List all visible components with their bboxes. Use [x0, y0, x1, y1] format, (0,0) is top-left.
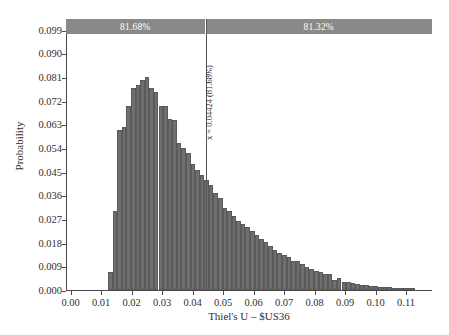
- x-axis-tick-label: 0.04: [183, 297, 201, 308]
- marker-label: x = 0.04424 (81.68%): [204, 65, 214, 140]
- certainty-band: 81.68%81.32%: [66, 19, 432, 34]
- x-axis-title: Thiel's U – $US36: [66, 310, 432, 322]
- x-axis-tick-mark: [315, 291, 316, 295]
- y-axis-tick-label: 0.063: [16, 120, 62, 130]
- y-axis-tick-label: 0.099: [16, 26, 62, 36]
- x-axis-tick-label: 0.03: [153, 297, 171, 308]
- x-axis-tick-label: 0.09: [336, 297, 354, 308]
- x-axis-tick-label: 0.08: [305, 297, 323, 308]
- y-axis-tick-labels: 0.0000.0090.0180.0270.0360.0450.0540.063…: [16, 0, 62, 335]
- x-axis-tick-label: 0.11: [397, 297, 415, 308]
- x-axis-tick-mark: [162, 291, 163, 295]
- certainty-band-segment: 81.68%: [66, 19, 206, 34]
- x-axis-tick-mark: [193, 291, 194, 295]
- y-axis-tick-label: 0.036: [16, 191, 62, 201]
- x-axis-tick-mark: [345, 291, 346, 295]
- x-axis-tick-mark: [284, 291, 285, 295]
- x-axis-tick-label: 0.00: [61, 297, 79, 308]
- y-axis-tick-label: 0.000: [16, 286, 62, 296]
- x-axis-tick-mark: [132, 291, 133, 295]
- x-axis-tick-label: 0.10: [366, 297, 384, 308]
- x-axis-tick-mark: [254, 291, 255, 295]
- plot-area: [66, 19, 432, 291]
- x-axis-tick-mark: [223, 291, 224, 295]
- x-axis-tick-label: 0.01: [92, 297, 110, 308]
- y-axis-tick-label: 0.081: [16, 73, 62, 83]
- x-axis-tick-mark: [406, 291, 407, 295]
- x-axis-tick-label: 0.07: [275, 297, 293, 308]
- histogram-bar: [410, 288, 415, 290]
- x-axis-tick-mark: [71, 291, 72, 295]
- marker-line: [206, 19, 207, 291]
- x-axis-tick-label: 0.05: [214, 297, 232, 308]
- y-axis-tick-label: 0.045: [16, 168, 62, 178]
- y-axis-tick-label: 0.018: [16, 239, 62, 249]
- y-axis-tick-label: 0.054: [16, 144, 62, 154]
- probability-histogram-chart: Probability 0.0000.0090.0180.0270.0360.0…: [0, 0, 449, 335]
- y-axis-tick-label: 0.072: [16, 97, 62, 107]
- x-axis-tick-label: 0.02: [122, 297, 140, 308]
- x-axis-tick-mark: [376, 291, 377, 295]
- x-axis-tick-mark: [101, 291, 102, 295]
- y-axis-tick-label: 0.027: [16, 215, 62, 225]
- histogram-bars: [67, 19, 432, 290]
- certainty-band-segment: 81.32%: [206, 19, 432, 34]
- x-axis-tick-label: 0.06: [244, 297, 262, 308]
- y-axis-tick-label: 0.090: [16, 49, 62, 59]
- y-axis-tick-label: 0.009: [16, 262, 62, 272]
